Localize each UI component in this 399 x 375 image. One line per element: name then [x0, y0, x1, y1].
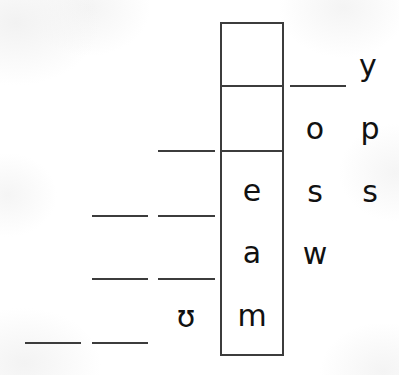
right-letter-w: w: [295, 239, 335, 269]
column-letter-e: e: [232, 176, 272, 206]
column-letter-a: a: [232, 238, 272, 268]
divider-row-2: [222, 150, 282, 152]
blank-line-r1-right: [290, 85, 346, 87]
divider-row-1: [222, 85, 282, 87]
blank-line-r4-b: [158, 278, 215, 280]
blank-line-r4-a: [92, 278, 148, 280]
right-letter-o: o: [295, 114, 335, 144]
blank-line-r2-left: [158, 150, 215, 152]
blank-line-r3-a: [92, 215, 148, 217]
right-letter-p: p: [350, 114, 390, 144]
blank-line-r5-b: [92, 342, 148, 344]
right-letter-s: s: [295, 177, 335, 207]
blank-line-r5-a: [25, 342, 81, 344]
right-letter-s: s: [350, 177, 390, 207]
column-letter-m: m: [232, 301, 272, 331]
left-letter-ʊ: ʊ: [166, 302, 206, 332]
blank-line-r3-b: [158, 215, 215, 217]
right-letter-y: y: [348, 51, 388, 81]
worksheet-canvas: eam yopssw ʊ: [0, 0, 399, 375]
